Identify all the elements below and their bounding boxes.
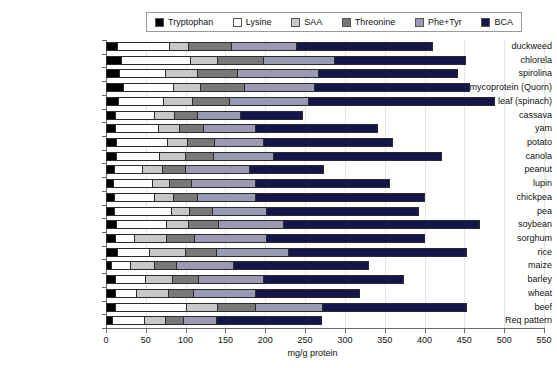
- bar-segment-tryptophan[interactable]: [106, 193, 115, 202]
- stacked-bar[interactable]: [106, 165, 324, 174]
- bar-segment-tryptophan[interactable]: [106, 207, 115, 216]
- bar-segment-phe-tyr[interactable]: [219, 220, 284, 229]
- bar-segment-phe-tyr[interactable]: [264, 56, 336, 65]
- bar-segment-saa[interactable]: [187, 303, 218, 312]
- bar-segment-bca[interactable]: [323, 303, 467, 312]
- bar-segment-saa[interactable]: [164, 97, 193, 106]
- bar-segment-phe-tyr[interactable]: [238, 69, 319, 78]
- bar-segment-lysine[interactable]: [119, 97, 164, 106]
- bar-segment-phe-tyr[interactable]: [232, 42, 297, 51]
- bar-segment-phe-tyr[interactable]: [177, 261, 234, 270]
- stacked-bar[interactable]: [106, 42, 433, 51]
- bar-segment-phe-tyr[interactable]: [230, 97, 309, 106]
- bar-segment-threonine[interactable]: [188, 138, 215, 147]
- bar-segment-phe-tyr[interactable]: [215, 138, 264, 147]
- bar-segment-bca[interactable]: [309, 97, 495, 106]
- bar-segment-saa[interactable]: [135, 234, 167, 243]
- bar-segment-saa[interactable]: [155, 193, 175, 202]
- bar-segment-phe-tyr[interactable]: [186, 165, 250, 174]
- bar-segment-tryptophan[interactable]: [106, 316, 113, 325]
- bar-segment-lysine[interactable]: [116, 111, 156, 120]
- bar-segment-saa[interactable]: [131, 261, 155, 270]
- bar-segment-lysine[interactable]: [117, 152, 160, 161]
- bar-segment-tryptophan[interactable]: [106, 42, 118, 51]
- bar-segment-bca[interactable]: [319, 69, 458, 78]
- bar-segment-lysine[interactable]: [115, 165, 143, 174]
- stacked-bar[interactable]: [106, 124, 378, 133]
- bar-segment-phe-tyr[interactable]: [194, 289, 255, 298]
- bar-segment-threonine[interactable]: [163, 165, 187, 174]
- bar-segment-tryptophan[interactable]: [106, 97, 119, 106]
- bar-segment-threonine[interactable]: [155, 261, 177, 270]
- bar-segment-bca[interactable]: [256, 289, 360, 298]
- bar-segment-bca[interactable]: [267, 234, 425, 243]
- stacked-bar[interactable]: [106, 261, 369, 270]
- bar-segment-phe-tyr[interactable]: [198, 193, 255, 202]
- bar-segment-lysine[interactable]: [118, 248, 150, 257]
- bar-segment-lysine[interactable]: [116, 303, 187, 312]
- bar-segment-tryptophan[interactable]: [106, 83, 124, 92]
- bar-segment-threonine[interactable]: [193, 97, 230, 106]
- bar-segment-bca[interactable]: [250, 165, 324, 174]
- bar-segment-bca[interactable]: [284, 220, 480, 229]
- bar-segment-threonine[interactable]: [186, 248, 217, 257]
- bar-segment-saa[interactable]: [143, 165, 163, 174]
- bar-segment-saa[interactable]: [166, 69, 199, 78]
- bar-segment-saa[interactable]: [137, 289, 169, 298]
- bar-segment-threonine[interactable]: [173, 275, 199, 284]
- legend-item-lysine[interactable]: Lysine: [233, 18, 272, 27]
- bar-segment-threonine[interactable]: [170, 179, 192, 188]
- bar-segment-threonine[interactable]: [201, 83, 245, 92]
- bar-segment-phe-tyr[interactable]: [198, 111, 242, 120]
- stacked-bar[interactable]: [106, 97, 495, 106]
- bar-segment-phe-tyr[interactable]: [184, 316, 217, 325]
- bar-segment-bca[interactable]: [335, 56, 466, 65]
- bar-segment-phe-tyr[interactable]: [217, 248, 289, 257]
- bar-segment-tryptophan[interactable]: [106, 165, 115, 174]
- bar-segment-tryptophan[interactable]: [106, 56, 122, 65]
- bar-segment-tryptophan[interactable]: [106, 303, 116, 312]
- legend-item-phe-tyr[interactable]: Phe+Tyr: [415, 18, 462, 27]
- bar-segment-threonine[interactable]: [169, 289, 194, 298]
- bar-segment-bca[interactable]: [264, 275, 404, 284]
- bar-segment-bca[interactable]: [241, 111, 303, 120]
- bar-segment-threonine[interactable]: [190, 207, 213, 216]
- bar-segment-lysine[interactable]: [122, 56, 191, 65]
- bar-segment-lysine[interactable]: [117, 138, 168, 147]
- bar-segment-tryptophan[interactable]: [106, 179, 114, 188]
- bar-segment-threonine[interactable]: [189, 42, 232, 51]
- stacked-bar[interactable]: [106, 275, 404, 284]
- stacked-bar[interactable]: [106, 56, 466, 65]
- bar-segment-lysine[interactable]: [117, 220, 166, 229]
- bar-segment-bca[interactable]: [274, 152, 442, 161]
- bar-segment-bca[interactable]: [267, 207, 419, 216]
- stacked-bar[interactable]: [106, 248, 467, 257]
- stacked-bar[interactable]: [106, 234, 425, 243]
- legend-item-bca[interactable]: BCA: [481, 18, 513, 27]
- stacked-bar[interactable]: [106, 83, 470, 92]
- stacked-bar[interactable]: [106, 152, 442, 161]
- bar-segment-phe-tyr[interactable]: [214, 152, 274, 161]
- stacked-bar[interactable]: [106, 111, 303, 120]
- bar-segment-bca[interactable]: [217, 316, 321, 325]
- bar-segment-lysine[interactable]: [116, 234, 136, 243]
- bar-segment-saa[interactable]: [168, 138, 188, 147]
- bar-segment-saa[interactable]: [160, 152, 186, 161]
- bar-segment-saa[interactable]: [150, 248, 186, 257]
- bar-segment-lysine[interactable]: [115, 193, 155, 202]
- bar-segment-saa[interactable]: [155, 111, 175, 120]
- bar-segment-phe-tyr[interactable]: [204, 124, 256, 133]
- bar-segment-saa[interactable]: [167, 220, 189, 229]
- legend-item-tryptophan[interactable]: Tryptophan: [155, 18, 213, 27]
- bar-segment-threonine[interactable]: [189, 220, 219, 229]
- legend-item-saa[interactable]: SAA: [291, 18, 322, 27]
- stacked-bar[interactable]: [106, 220, 480, 229]
- stacked-bar[interactable]: [106, 303, 467, 312]
- bar-segment-threonine[interactable]: [166, 316, 184, 325]
- bar-segment-lysine[interactable]: [114, 179, 153, 188]
- bar-segment-lysine[interactable]: [112, 261, 130, 270]
- bar-segment-bca[interactable]: [234, 261, 369, 270]
- bar-segment-bca[interactable]: [289, 248, 467, 257]
- bar-segment-lysine[interactable]: [116, 124, 159, 133]
- bar-segment-threonine[interactable]: [174, 193, 198, 202]
